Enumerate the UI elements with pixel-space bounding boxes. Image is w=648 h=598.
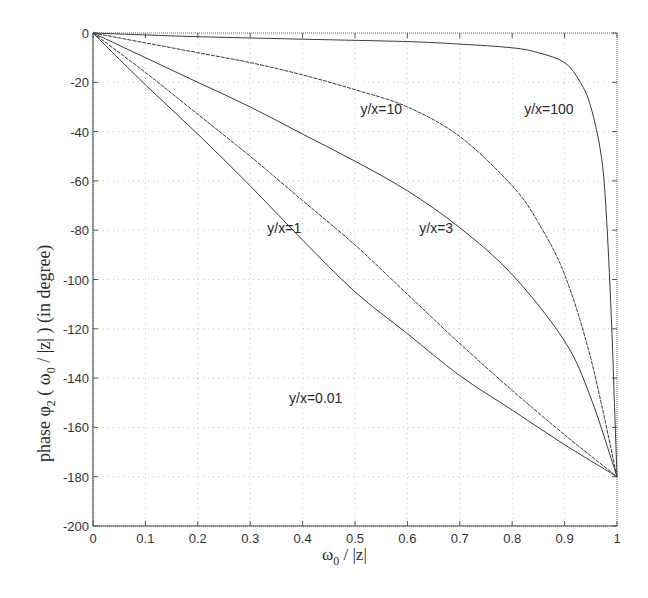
series-line [93, 33, 617, 477]
series-line [93, 33, 617, 477]
curve-label: y/x=0.01 [289, 390, 343, 406]
y-tick-label: -80 [70, 223, 89, 238]
series-line [93, 33, 617, 477]
x-tick-label: 0.3 [241, 531, 259, 546]
x-tick-label: 0.8 [503, 531, 521, 546]
y-tick-label: -20 [70, 75, 89, 90]
x-tick-label: 0.1 [136, 531, 154, 546]
y-axis-label: phase φ2 ( ω0 / |z| ) (in degree) [34, 245, 58, 462]
x-tick-label: 0.9 [556, 531, 574, 546]
y-tick-label: -100 [63, 273, 89, 288]
data-series [93, 33, 617, 477]
y-tick-label: -60 [70, 174, 89, 189]
x-axis-label: ω0 / |z| [322, 545, 367, 568]
x-tick-label: 0 [89, 531, 96, 546]
curve-label: y/x=10 [360, 101, 402, 117]
x-tick-label: 0.2 [189, 531, 207, 546]
x-tick-label: 1 [613, 531, 620, 546]
y-tick-label: -160 [63, 420, 89, 435]
y-tick-label: -120 [63, 322, 89, 337]
x-tick-label: 0.7 [451, 531, 469, 546]
curve-label: y/x=1 [267, 220, 301, 236]
curve-label: y/x=3 [419, 220, 453, 236]
y-tick-label: -180 [63, 470, 89, 485]
y-tick-label: -140 [63, 371, 89, 386]
y-tick-label: -200 [63, 519, 89, 534]
phase-chart: 00.10.20.30.40.50.60.70.80.910-20-40-60-… [0, 0, 648, 598]
x-tick-label: 0.6 [398, 531, 416, 546]
curve-annotations: y/x=100y/x=10y/x=3y/x=1y/x=0.01 [267, 101, 573, 405]
series-line [93, 33, 617, 477]
curve-label: y/x=100 [524, 101, 574, 117]
series-line [93, 33, 617, 477]
x-tick-label: 0.5 [346, 531, 364, 546]
y-tick-label: -40 [70, 125, 89, 140]
x-tick-label: 0.4 [294, 531, 312, 546]
y-tick-label: 0 [82, 26, 89, 41]
